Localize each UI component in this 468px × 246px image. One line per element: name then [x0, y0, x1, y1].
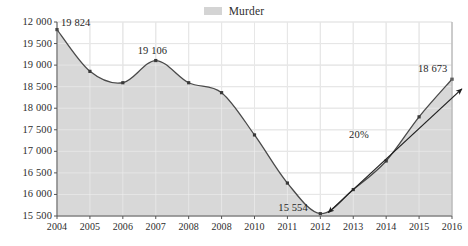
x-axis-tick-label: 2004	[40, 221, 74, 232]
data-point-value-label: 18 673	[418, 63, 447, 74]
x-axis-tick-label: 2012	[303, 221, 337, 232]
x-axis-tick-label: 2013	[336, 221, 370, 232]
data-point-value-label: 19 106	[138, 45, 167, 56]
x-axis-tick-label: 2010	[238, 221, 272, 232]
x-axis-tick-label: 2005	[73, 221, 107, 232]
annotation-label-growth: 20%	[349, 129, 369, 140]
x-axis-labels: 2004200520062007200820082010201120122013…	[0, 0, 468, 246]
x-axis-tick-label: 2007	[139, 221, 173, 232]
murder-statistics-area-chart: Murder 15 50016 00016 50017 00017 50018 …	[0, 0, 468, 246]
x-axis-tick-label: 2016	[435, 221, 468, 232]
data-point-value-label: 19 824	[61, 17, 90, 28]
x-axis-tick-label: 2008	[205, 221, 239, 232]
x-axis-tick-label: 2006	[106, 221, 140, 232]
x-axis-tick-label: 2011	[270, 221, 304, 232]
x-axis-tick-label: 2014	[369, 221, 403, 232]
x-axis-tick-label: 2008	[172, 221, 206, 232]
x-axis-tick-label: 2015	[402, 221, 436, 232]
data-point-value-label: 15 554	[278, 202, 307, 213]
